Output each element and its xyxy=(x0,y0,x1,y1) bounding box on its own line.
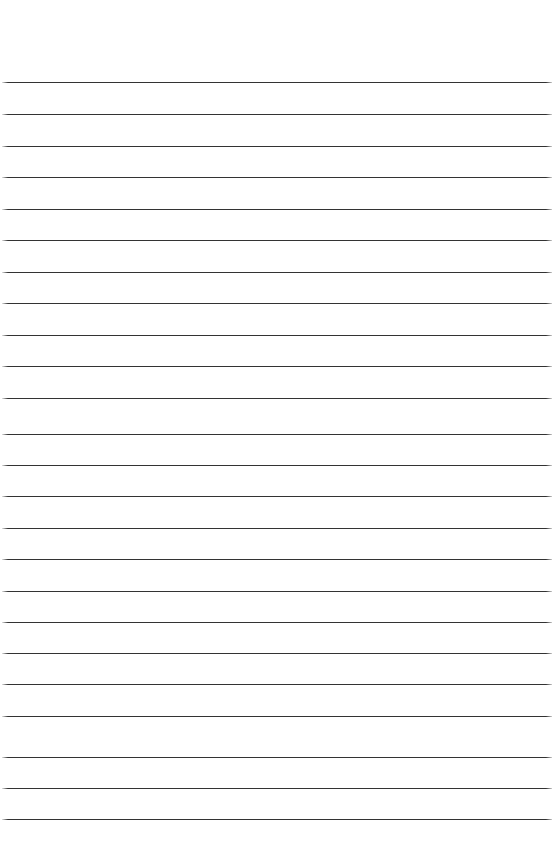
rule-line-21 xyxy=(2,716,552,717)
rule-line-3 xyxy=(2,146,552,147)
rule-line-18 xyxy=(2,622,552,623)
rule-line-17 xyxy=(2,591,552,592)
rule-line-1 xyxy=(2,82,552,83)
rule-line-6 xyxy=(2,240,552,241)
rule-line-23 xyxy=(2,788,552,789)
rule-line-24 xyxy=(2,819,552,820)
rule-line-4 xyxy=(2,177,552,178)
rule-line-19 xyxy=(2,653,552,654)
rule-line-2 xyxy=(2,114,552,115)
rule-line-5 xyxy=(2,209,552,210)
rule-line-15 xyxy=(2,528,552,529)
rule-line-12 xyxy=(2,434,552,435)
ruled-lines-layer xyxy=(0,0,555,843)
rule-line-8 xyxy=(2,303,552,304)
rule-line-7 xyxy=(2,272,552,273)
ruled-page xyxy=(0,0,555,843)
rule-line-9 xyxy=(2,335,552,336)
rule-line-10 xyxy=(2,366,552,367)
rule-line-13 xyxy=(2,465,552,466)
rule-line-20 xyxy=(2,684,552,685)
rule-line-14 xyxy=(2,496,552,497)
rule-line-11 xyxy=(2,398,552,399)
rule-line-16 xyxy=(2,559,552,560)
rule-line-22 xyxy=(2,757,552,758)
